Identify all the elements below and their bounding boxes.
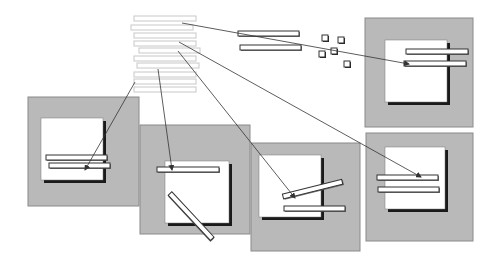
placed-strip — [404, 61, 467, 67]
white-square — [41, 118, 103, 180]
placed-strip — [46, 155, 108, 161]
placed-strip — [377, 175, 439, 181]
small-squares — [319, 35, 351, 68]
loose-strip — [240, 45, 302, 51]
small-square — [319, 51, 326, 58]
stack-strip — [134, 72, 197, 78]
placed-strip — [49, 163, 111, 169]
panel-top-right — [365, 18, 473, 127]
small-square — [344, 61, 351, 68]
stack-strip — [137, 63, 200, 69]
small-square — [338, 37, 345, 44]
panels-layer — [28, 18, 473, 251]
placed-strip — [406, 49, 469, 55]
panel-bottom-right — [366, 133, 473, 241]
diagram-canvas — [0, 0, 501, 266]
small-square — [322, 35, 329, 42]
stack-strip — [134, 33, 197, 39]
stack-strip — [134, 41, 197, 47]
stack-strip — [134, 79, 197, 85]
panel-middle-1 — [140, 125, 250, 242]
placed-strip — [284, 206, 346, 212]
placed-strip — [157, 167, 220, 173]
stack-strip — [131, 25, 194, 31]
small-square — [331, 48, 338, 55]
stack-strip — [134, 87, 197, 93]
panel-middle-2 — [251, 143, 360, 251]
loose-strips — [238, 31, 302, 51]
strip-stack — [131, 16, 201, 93]
loose-strip — [238, 31, 300, 37]
stack-strip — [134, 16, 197, 22]
stack-strip — [134, 56, 197, 62]
placed-strip — [378, 187, 440, 193]
panel-left — [28, 97, 139, 206]
